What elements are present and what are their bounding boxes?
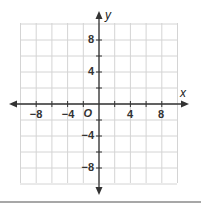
x-axis-label: x: [179, 86, 187, 100]
x-tick-label: 8: [158, 108, 164, 120]
y-axis-down-arrow-icon: [96, 187, 103, 195]
x-axis-right-arrow-icon: [181, 101, 189, 108]
y-tick-label: 4: [88, 65, 95, 77]
y-tick-label: −4: [81, 129, 94, 141]
origin-label: O: [83, 107, 92, 119]
y-axis-up-arrow-icon: [96, 11, 103, 19]
x-tick-label: 4: [127, 108, 134, 120]
x-tick-label: −4: [62, 108, 75, 120]
y-axis-label: y: [104, 8, 112, 22]
tick-labels: −8 −4 4 8 8 4 −4 −8 O x y: [30, 8, 187, 173]
y-tick-label: −8: [81, 161, 94, 173]
x-tick-label: −8: [30, 108, 43, 120]
x-axis-left-arrow-icon: [9, 101, 17, 108]
y-tick-label: 8: [88, 33, 94, 45]
coordinate-plane: −8 −4 4 8 8 4 −4 −8 O x y: [0, 0, 201, 203]
